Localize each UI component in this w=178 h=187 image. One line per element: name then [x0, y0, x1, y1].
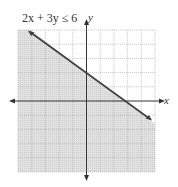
- inequality-label: 2x + 3y ≤ 6: [22, 11, 77, 26]
- y-axis-label: y: [88, 11, 93, 23]
- x-axis-label: x: [164, 94, 169, 106]
- inequality-graph: [0, 0, 178, 187]
